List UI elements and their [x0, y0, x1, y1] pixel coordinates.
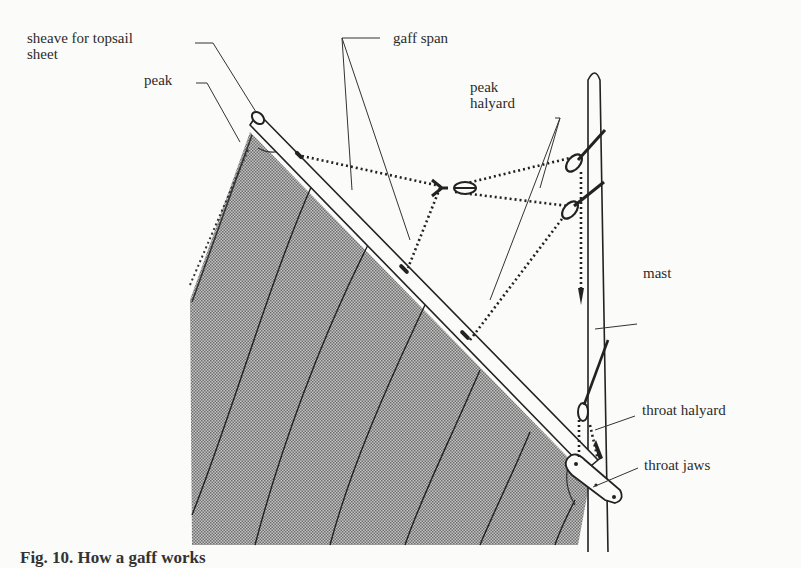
label-peak-halyard: peak halyard: [470, 79, 515, 111]
label-peak-halyard-line1: peak: [470, 79, 515, 95]
label-peak: peak: [144, 72, 172, 88]
label-sheave-for-topsail-sheet: sheave for topsail sheet: [27, 30, 133, 62]
label-sheave-line2: sheet: [27, 46, 133, 62]
label-gaff-span: gaff span: [393, 30, 448, 46]
figure-caption: Fig. 10. How a gaff works: [20, 548, 206, 568]
label-mast: mast: [643, 265, 671, 281]
sail: [190, 132, 590, 545]
label-sheave-line1: sheave for topsail: [27, 30, 133, 46]
label-peak-halyard-line2: halyard: [470, 95, 515, 111]
label-throat-halyard: throat halyard: [642, 402, 726, 418]
label-throat-jaws: throat jaws: [644, 457, 710, 473]
